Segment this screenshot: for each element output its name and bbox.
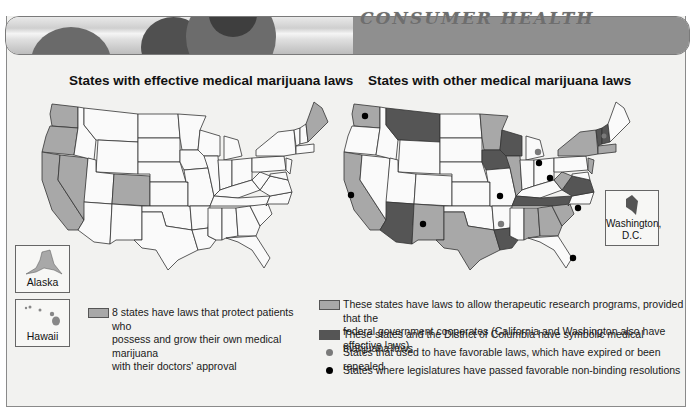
left-legend-text: 8 states have laws that protect patients… [112, 306, 312, 374]
black-dot-ohio [547, 175, 553, 181]
black-dot-missouri [497, 193, 503, 199]
gray-dot-new-hampshire [602, 134, 607, 139]
right-us-map [340, 100, 640, 270]
legend-gray-dot [326, 349, 333, 356]
alaska-label: Alaska [16, 276, 69, 288]
dc-label-line: Washington, [606, 218, 658, 230]
state-florida [226, 236, 270, 268]
state-wisconsin [500, 130, 522, 156]
state-new-mexico [110, 204, 142, 244]
state-wisconsin [198, 130, 220, 156]
right-map-title: States with other medical marijuana laws [368, 73, 631, 88]
state-new-mexico [412, 204, 444, 244]
left-map-title: States with effective medical marijuana … [69, 73, 353, 88]
state-arkansas [190, 206, 210, 230]
state-colorado [112, 174, 150, 206]
state-washington [50, 104, 78, 128]
black-dot-washington [362, 113, 368, 119]
state-colorado [414, 174, 452, 206]
state-wyoming [398, 140, 440, 174]
state-south-dakota [138, 138, 180, 162]
state-massachusetts [296, 144, 314, 154]
dc-shape [606, 191, 658, 221]
state-maine [608, 102, 630, 142]
state-kansas [150, 182, 188, 206]
banner-decoration [6, 17, 353, 54]
right-legend-item-4: States where legislatures have passed fa… [343, 364, 688, 378]
state-pennsylvania [252, 156, 286, 172]
alaska-inset: Alaska [15, 245, 70, 293]
state-north-dakota [138, 114, 180, 138]
legend-line: These states have laws to allow therapeu… [343, 298, 688, 325]
state-pennsylvania [554, 156, 588, 172]
legend-dark-swatch [319, 330, 340, 340]
hawaii-label: Hawaii [16, 330, 69, 342]
section-title: CONSUMER HEALTH [360, 8, 594, 28]
state-north-dakota [440, 114, 482, 138]
state-michigan [526, 136, 544, 160]
black-dot-michigan [536, 160, 542, 166]
legend-black-dot [326, 367, 333, 374]
gray-dot-arkansas [498, 221, 504, 227]
legend-light-swatch [319, 300, 340, 310]
left-legend-line: 8 states have laws that protect patients… [112, 306, 312, 333]
dc-inset: Washington, D.C. [605, 190, 659, 246]
state-florida [528, 236, 572, 268]
left-legend-line: with their doctors' approval [112, 360, 312, 374]
state-mississippi [510, 208, 524, 240]
state-new-york [256, 130, 296, 156]
legend-light-swatch [88, 308, 109, 318]
gray-dot-michigan [535, 149, 541, 155]
left-legend-line: possess and grow their own medical marij… [112, 333, 312, 360]
state-kansas [452, 182, 490, 206]
state-new-york [558, 130, 598, 156]
alaska-shape [16, 246, 69, 278]
hawaii-shape [16, 300, 69, 330]
state-wyoming [96, 140, 138, 174]
black-dot-north-carolina [575, 205, 581, 211]
state-indiana [520, 160, 534, 190]
hawaii-inset: Hawaii [15, 299, 70, 347]
dc-label: Washington, D.C. [606, 218, 658, 242]
state-new-jersey [286, 158, 292, 174]
dc-label-line: D.C. [606, 230, 658, 242]
decorative-circle [31, 27, 111, 55]
state-massachusetts [598, 144, 616, 154]
state-alabama [222, 208, 238, 240]
state-mississippi [208, 208, 222, 240]
state-michigan [224, 136, 242, 160]
state-maine [306, 102, 328, 142]
state-alabama [524, 208, 540, 240]
state-south-dakota [440, 138, 482, 162]
state-indiana [218, 160, 232, 190]
state-oregon [42, 126, 78, 155]
left-us-map [38, 100, 338, 270]
state-new-jersey [588, 158, 594, 174]
black-dot-california [348, 192, 354, 198]
black-dot-florida [570, 255, 576, 261]
black-dot-new-mexico [420, 221, 426, 227]
state-oregon [344, 126, 380, 155]
